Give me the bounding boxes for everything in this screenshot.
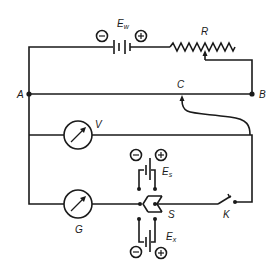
wire-wiper-to-b bbox=[205, 60, 252, 94]
voltmeter-label: V bbox=[95, 119, 103, 130]
wire-top-left bbox=[29, 47, 113, 94]
ex-label: Ex bbox=[166, 231, 177, 243]
es-plus-icon bbox=[156, 150, 167, 161]
wiper-arrow-icon bbox=[203, 50, 208, 56]
rheostat-label: R bbox=[201, 26, 208, 37]
node-b-label: B bbox=[259, 89, 266, 100]
ex-minus-icon bbox=[131, 247, 142, 258]
ex-wire-right bbox=[151, 219, 155, 242]
node-a-label: A bbox=[16, 89, 24, 100]
es-minus-icon bbox=[131, 150, 142, 161]
rheostat-r bbox=[170, 43, 235, 51]
ew-plus-icon bbox=[136, 31, 147, 42]
es-wire-left bbox=[139, 170, 144, 189]
key-k-label: K bbox=[223, 209, 231, 220]
ew-label: Ew bbox=[117, 18, 130, 30]
es-label: Es bbox=[162, 166, 173, 178]
es-wire-right bbox=[151, 170, 155, 189]
wire-left-vertical bbox=[29, 94, 64, 204]
slider-lead bbox=[182, 100, 250, 135]
galvanometer-g bbox=[64, 190, 92, 218]
ew-minus-icon bbox=[97, 31, 108, 42]
potentiometer-circuit-diagram: Ew R A B C V G S bbox=[0, 0, 270, 270]
voltmeter-v bbox=[64, 121, 92, 149]
slider-c-label: C bbox=[177, 79, 185, 90]
working-battery-ew bbox=[114, 40, 130, 54]
switch-s-label: S bbox=[168, 209, 175, 220]
node-b-dot bbox=[249, 91, 254, 96]
ex-plus-icon bbox=[156, 248, 167, 259]
key-switch-k[interactable] bbox=[218, 194, 237, 204]
wire-v-right bbox=[92, 135, 252, 202]
ex-wire-left bbox=[139, 219, 144, 242]
galvanometer-label: G bbox=[75, 224, 83, 235]
